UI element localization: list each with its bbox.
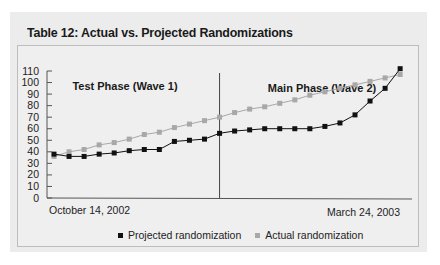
data-point-actual bbox=[172, 125, 177, 130]
data-point-projected bbox=[67, 154, 72, 159]
data-point-projected bbox=[157, 147, 162, 152]
y-tick-label: 0 bbox=[33, 192, 39, 204]
x-start-label: October 14, 2002 bbox=[49, 204, 130, 216]
y-tick-label: 20 bbox=[27, 168, 39, 180]
data-point-projected bbox=[322, 124, 327, 129]
data-point-projected bbox=[398, 66, 403, 71]
data-point-projected bbox=[277, 126, 282, 131]
data-point-actual bbox=[337, 86, 342, 91]
data-point-actual bbox=[127, 137, 132, 142]
data-point-actual bbox=[67, 149, 72, 154]
data-point-actual bbox=[97, 142, 102, 147]
legend-item-actual: Actual randomization bbox=[255, 229, 363, 241]
x-end-label: March 24, 2003 bbox=[327, 206, 400, 218]
data-point-projected bbox=[337, 120, 342, 125]
legend-item-projected: Projected randomization bbox=[118, 229, 241, 241]
legend-swatch-actual bbox=[255, 233, 260, 238]
legend-swatch-projected bbox=[118, 233, 123, 238]
data-point-projected bbox=[202, 137, 207, 142]
data-point-projected bbox=[247, 127, 252, 132]
line-chart: 0102030405060708090100110Test Phase (Wav… bbox=[0, 0, 440, 265]
data-point-actual bbox=[247, 107, 252, 112]
data-point-actual bbox=[142, 132, 147, 137]
data-point-actual bbox=[202, 118, 207, 123]
data-point-actual bbox=[368, 79, 373, 84]
y-tick-label: 80 bbox=[27, 99, 39, 111]
data-point-projected bbox=[112, 150, 117, 155]
data-point-actual bbox=[187, 122, 192, 127]
data-point-actual bbox=[82, 147, 87, 152]
phase-label-test: Test Phase (Wave 1) bbox=[72, 80, 177, 92]
y-tick-label: 70 bbox=[27, 111, 39, 123]
y-tick-label: 30 bbox=[27, 157, 39, 169]
data-point-projected bbox=[142, 147, 147, 152]
data-point-projected bbox=[97, 152, 102, 157]
data-point-projected bbox=[232, 129, 237, 134]
legend: Projected randomization Actual randomiza… bbox=[118, 229, 377, 241]
data-point-projected bbox=[307, 126, 312, 131]
data-point-actual bbox=[262, 104, 267, 109]
y-tick-label: 40 bbox=[27, 145, 39, 157]
x-axis bbox=[47, 198, 412, 199]
data-point-actual bbox=[112, 140, 117, 145]
data-point-actual bbox=[217, 115, 222, 120]
data-point-actual bbox=[232, 110, 237, 115]
data-point-projected bbox=[292, 126, 297, 131]
data-point-projected bbox=[368, 99, 373, 104]
data-point-projected bbox=[172, 139, 177, 144]
data-point-actual bbox=[157, 130, 162, 135]
data-point-actual bbox=[292, 97, 297, 102]
y-tick-label: 60 bbox=[27, 122, 39, 134]
legend-label-projected: Projected randomization bbox=[128, 229, 241, 241]
data-point-actual bbox=[398, 72, 403, 77]
data-point-actual bbox=[322, 89, 327, 94]
data-point-projected bbox=[187, 138, 192, 143]
legend-label-actual: Actual randomization bbox=[265, 229, 363, 241]
y-tick-label: 50 bbox=[27, 134, 39, 146]
data-point-projected bbox=[262, 126, 267, 131]
data-point-projected bbox=[217, 131, 222, 136]
data-point-projected bbox=[353, 112, 358, 117]
y-tick-label: 100 bbox=[21, 76, 39, 88]
y-tick-label: 10 bbox=[27, 180, 39, 192]
data-point-actual bbox=[353, 82, 358, 87]
data-point-actual bbox=[383, 75, 388, 80]
data-point-projected bbox=[82, 154, 87, 159]
data-point-actual bbox=[307, 93, 312, 98]
data-point-projected bbox=[52, 152, 57, 157]
data-point-actual bbox=[277, 101, 282, 106]
y-tick-label: 90 bbox=[27, 88, 39, 100]
data-point-projected bbox=[127, 148, 132, 153]
y-tick-label: 110 bbox=[22, 65, 39, 77]
data-point-projected bbox=[383, 86, 388, 91]
